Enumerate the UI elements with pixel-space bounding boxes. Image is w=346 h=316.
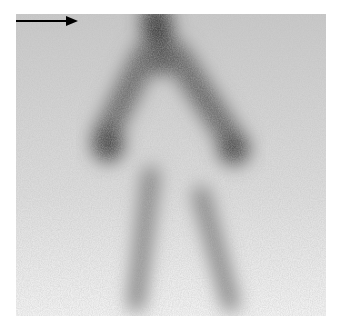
scintigraphy-image bbox=[16, 14, 326, 316]
arrow-annotation-icon bbox=[16, 14, 82, 28]
uptake-pattern bbox=[16, 14, 326, 316]
